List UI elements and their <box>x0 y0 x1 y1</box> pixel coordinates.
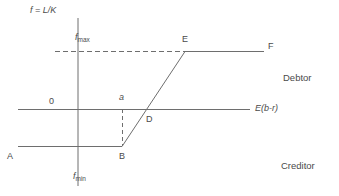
x-axis-label: E(b-r) <box>255 104 278 113</box>
creditor-region-label: Creditor <box>281 161 315 171</box>
f-max-label-subscript: max <box>78 36 90 43</box>
debtor-region-label: Debtor <box>283 73 312 83</box>
segment-b-e <box>122 52 185 147</box>
f-min-label-subscript: min <box>76 175 86 182</box>
origin-label: 0 <box>49 97 54 106</box>
a-label: a <box>119 93 124 102</box>
point-a-label: A <box>7 152 13 161</box>
point-b-label: B <box>119 152 125 161</box>
point-f-label: F <box>268 42 274 51</box>
f-max-label: fmax <box>75 33 90 42</box>
point-d-label: D <box>146 115 153 124</box>
y-axis-label: f = L/K <box>30 6 56 15</box>
f-min-label: fmin <box>73 172 86 181</box>
point-e-label: E <box>182 35 188 44</box>
